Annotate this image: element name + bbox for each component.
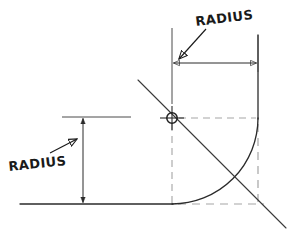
radius-construction-diagram: RADIUS RADIUS xyxy=(0,0,292,238)
vertical-dimension-group xyxy=(62,117,131,203)
outline-geometry-group xyxy=(20,35,286,228)
horizontal-dimension-group xyxy=(172,28,258,104)
top-radius-label: RADIUS xyxy=(195,7,254,29)
diagonal-construction-line xyxy=(138,80,286,228)
arc-center-mark-group xyxy=(160,106,184,130)
construction-lines-group xyxy=(172,118,264,208)
left-radius-label: RADIUS xyxy=(8,153,67,174)
technical-drawing-canvas: RADIUS RADIUS xyxy=(0,0,292,238)
left-radius-leader-line xyxy=(50,139,77,153)
top-radius-leader-line xyxy=(179,29,206,59)
annotation-group: RADIUS RADIUS xyxy=(8,7,254,174)
fillet-arc xyxy=(172,118,258,204)
